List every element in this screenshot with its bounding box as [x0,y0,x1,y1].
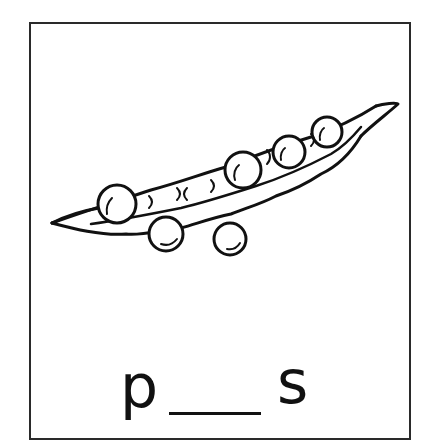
last-letter: s [277,352,308,412]
pea-3 [273,136,305,168]
pea-1 [98,185,136,223]
loose-pea-1 [149,217,183,251]
fill-in-word: p s [31,346,413,426]
pea-4 [312,117,342,147]
missing-letters-blank[interactable] [169,412,261,415]
pea-2 [225,152,261,188]
worksheet-card: p s [29,22,411,440]
first-letter: p [120,356,158,416]
